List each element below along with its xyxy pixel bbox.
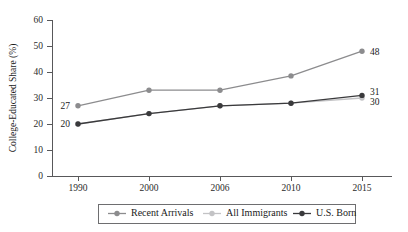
data-point <box>75 103 80 108</box>
data-label: 30 <box>370 97 380 107</box>
data-label: 20 <box>61 119 71 129</box>
line-chart: College-Educated Share (%) 0102030405060… <box>0 0 408 232</box>
data-point <box>288 73 293 78</box>
legend-marker-dot <box>209 211 214 216</box>
y-tick-label: 30 <box>34 93 44 103</box>
x-tick-label: 2015 <box>353 183 372 193</box>
legend-label: U.S. Born <box>316 207 356 218</box>
data-point <box>217 103 222 108</box>
data-point <box>359 49 364 54</box>
y-tick-label: 60 <box>34 15 44 25</box>
x-tick-label: 2010 <box>282 183 301 193</box>
y-tick-label: 0 <box>38 171 43 181</box>
x-tick-label: 1990 <box>69 183 88 193</box>
legend-label: Recent Arrivals <box>131 207 194 218</box>
data-point <box>146 88 151 93</box>
y-axis-title: College-Educated Share (%) <box>8 44 19 153</box>
chart-legend: Recent ArrivalsAll ImmigrantsU.S. Born <box>99 205 357 224</box>
y-axis-title-group: College-Educated Share (%) <box>8 44 19 153</box>
data-label: 48 <box>370 47 380 57</box>
chart-container: College-Educated Share (%) 0102030405060… <box>0 0 408 232</box>
legend-marker-dot <box>299 211 304 216</box>
series-u-s-born <box>75 93 364 127</box>
series-layer <box>75 49 364 127</box>
data-point <box>146 111 151 116</box>
series-line <box>78 51 362 106</box>
legend-marker-dot <box>114 211 119 216</box>
data-point <box>75 121 80 126</box>
y-tick-label: 50 <box>34 41 44 51</box>
y-tick-label: 10 <box>34 145 44 155</box>
data-label: 31 <box>370 87 380 97</box>
series-line <box>78 95 362 124</box>
x-tick-label: 2006 <box>211 183 230 193</box>
data-label: 27 <box>61 101 71 111</box>
x-axis-ticks: 19902000200620102015 <box>69 177 372 194</box>
y-tick-label: 20 <box>34 119 44 129</box>
data-point <box>288 101 293 106</box>
data-point <box>359 93 364 98</box>
data-point <box>217 88 222 93</box>
y-axis-ticks: 0102030405060 <box>34 15 53 181</box>
y-tick-label: 40 <box>34 67 44 77</box>
x-tick-label: 2000 <box>140 183 159 193</box>
legend-label: All Immigrants <box>226 207 287 218</box>
series-line <box>78 98 362 124</box>
